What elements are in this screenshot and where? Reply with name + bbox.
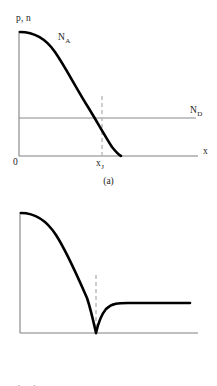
panel-a-nd-level-label: ND (190, 106, 202, 116)
panel-b: |p-n| ND 0 xJ x (b) (0, 193, 217, 386)
figure-root: p, n NA ND 0 xJ x (a) |p-n| ND 0 xJ x (b… (0, 0, 217, 386)
panel-a-caption: (a) (0, 176, 217, 186)
na-profile-curve (20, 32, 121, 156)
panel-a-x-axis-label: x (203, 147, 208, 157)
nd-label-base: N (190, 105, 197, 115)
panel-a-origin-label: 0 (13, 158, 18, 168)
net-concentration-curve (21, 213, 190, 333)
panel-b-plot (0, 193, 217, 386)
panel-a-xj-label: xJ (96, 159, 104, 169)
panel-a-na-curve-label: NA (58, 33, 70, 43)
nd-label-subscript: D (197, 110, 202, 118)
na-label-base: N (58, 32, 65, 42)
panel-a: p, n NA ND 0 xJ x (a) (0, 0, 217, 193)
panel-a-plot (0, 0, 217, 193)
na-label-subscript: A (65, 37, 70, 45)
xj-label-subscript: J (101, 163, 104, 171)
panel-a-y-axis-label: p, n (16, 14, 31, 24)
